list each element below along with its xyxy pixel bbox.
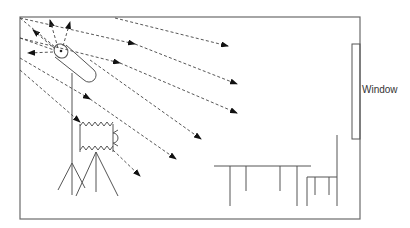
ray-arrow — [28, 52, 53, 53]
light-rays — [20, 18, 237, 176]
ray-arrow — [115, 18, 228, 46]
studio-diagram — [0, 0, 410, 228]
bellows-top — [80, 122, 113, 126]
ray-arrow — [90, 60, 201, 139]
window — [352, 44, 360, 139]
ray-arrow — [20, 58, 90, 99]
camera-tripod — [76, 152, 118, 196]
ray-arrow — [20, 38, 120, 63]
room-outline — [20, 17, 360, 219]
ray-arrow — [63, 22, 70, 46]
ray-arrow — [90, 99, 176, 159]
table — [214, 166, 311, 206]
ray-arrow — [20, 18, 135, 44]
bellows-bottom — [80, 146, 113, 150]
ray-arrow — [113, 150, 140, 176]
window-label: Window — [362, 84, 398, 95]
ray-arrow — [50, 20, 58, 48]
camera-lens — [113, 133, 118, 143]
ray-arrow — [20, 70, 80, 122]
camera — [80, 122, 118, 152]
ray-arrow — [120, 63, 237, 113]
light-bulb-dot — [60, 50, 63, 53]
light-stand — [58, 73, 85, 195]
ray-arrow — [135, 44, 237, 84]
chair — [307, 135, 337, 206]
